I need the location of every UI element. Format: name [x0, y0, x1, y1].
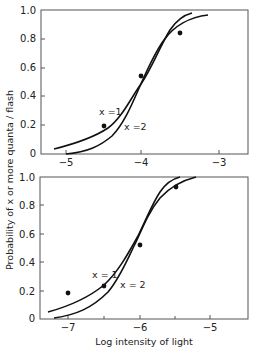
- bottom-x-ticks: [68, 315, 210, 319]
- bottom-plot: 1.0 0.8 0.6 0.4 0.2 0 −7 −6 −5 x = 1 x =…: [19, 172, 248, 333]
- bottom-ytick-0.8: 0.8: [19, 200, 35, 211]
- top-x-ticks: [66, 150, 219, 154]
- top-plot-frame: [41, 10, 248, 154]
- top-ytick-0.8: 0.8: [20, 33, 36, 44]
- top-plot: 1.0 0.8 0.6 0.4 0.2 0 −5 −4 −3 x =1 x =2: [20, 5, 248, 168]
- top-annotation-x2: x =2: [124, 121, 147, 132]
- bottom-ytick-0.6: 0.6: [19, 229, 35, 240]
- top-xtick--5: −5: [59, 157, 74, 168]
- top-ytick-0.2: 0.2: [20, 119, 36, 130]
- y-axis-label: Probability of x or more quanta / flash: [4, 90, 15, 270]
- bottom-ytick-1.0: 1.0: [19, 172, 35, 183]
- bottom-curve-x2: [54, 177, 196, 318]
- top-y-ticks: [41, 39, 45, 125]
- top-point-1: [102, 124, 107, 129]
- bottom-ytick-0: 0: [29, 313, 35, 324]
- top-curve-x2: [66, 15, 208, 154]
- bottom-plot-frame: [40, 177, 248, 319]
- top-xtick--3: −3: [212, 157, 227, 168]
- figure: 1.0 0.8 0.6 0.4 0.2 0 −5 −4 −3 x =1 x =2: [0, 0, 255, 353]
- bottom-xtick--7: −7: [61, 322, 76, 333]
- bottom-point-1: [66, 291, 71, 296]
- top-point-3: [178, 31, 183, 36]
- bottom-xtick--6: −6: [133, 322, 148, 333]
- top-curve-x1: [54, 13, 192, 149]
- top-point-2: [139, 74, 144, 79]
- top-ytick-0.6: 0.6: [20, 62, 36, 73]
- bottom-point-2: [102, 284, 107, 289]
- top-ytick-1.0: 1.0: [20, 5, 36, 16]
- bottom-annotation-x1: x = 1: [92, 269, 118, 280]
- top-ytick-0.4: 0.4: [20, 90, 36, 101]
- bottom-ytick-0.2: 0.2: [19, 286, 35, 297]
- top-annotation-x1: x =1: [99, 106, 122, 117]
- bottom-xtick--5: −5: [203, 322, 218, 333]
- bottom-point-4: [174, 185, 179, 190]
- top-ytick-0: 0: [30, 148, 36, 159]
- bottom-ytick-0.4: 0.4: [19, 257, 35, 268]
- bottom-y-ticks: [40, 205, 44, 291]
- bottom-point-3: [138, 243, 143, 248]
- top-xtick--4: −4: [134, 157, 149, 168]
- x-axis-label: Log intensity of light: [95, 336, 193, 347]
- bottom-annotation-x2: x = 2: [120, 279, 146, 290]
